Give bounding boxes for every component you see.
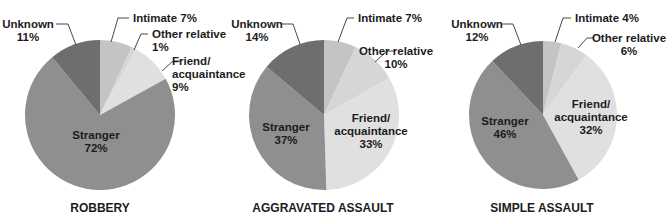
leader-line	[338, 18, 354, 42]
chart-stage: Intimate 7%Other relative1%Friend/acquai…	[0, 0, 670, 224]
pie-chart-simple-assault: Intimate 4%Other relative6%Friend/acquai…	[451, 12, 666, 215]
leader-line	[281, 24, 300, 44]
slice-label: Intimate 4%	[575, 12, 639, 24]
pie-chart-robbery: Intimate 7%Other relative1%Friend/acquai…	[2, 12, 245, 215]
leader-line	[56, 24, 76, 45]
slice-label: Other relative6%	[592, 32, 666, 57]
slice-label: Other relative1%	[152, 28, 226, 53]
slice-label: Intimate 7%	[133, 12, 197, 24]
leader-line	[134, 34, 148, 50]
chart-title: AGGRAVATED ASSAULT	[252, 201, 394, 215]
leader-line	[555, 18, 571, 42]
slice-label: Unknown11%	[2, 18, 54, 43]
pie-chart-aggravated-assault: Intimate 7%Other relative10%Friend/acqua…	[231, 12, 433, 215]
pie-charts-figure: Intimate 7%Other relative1%Friend/acquai…	[0, 0, 670, 224]
chart-title: SIMPLE ASSAULT	[490, 201, 594, 215]
slice-label: Unknown12%	[451, 18, 503, 43]
chart-title: ROBBERY	[70, 201, 130, 215]
slice-label: Unknown14%	[231, 18, 283, 43]
leader-line	[111, 18, 129, 42]
slice-label: Friend/acquaintance9%	[172, 55, 246, 93]
leader-line	[501, 24, 521, 45]
slice-label: Intimate 7%	[358, 12, 422, 24]
